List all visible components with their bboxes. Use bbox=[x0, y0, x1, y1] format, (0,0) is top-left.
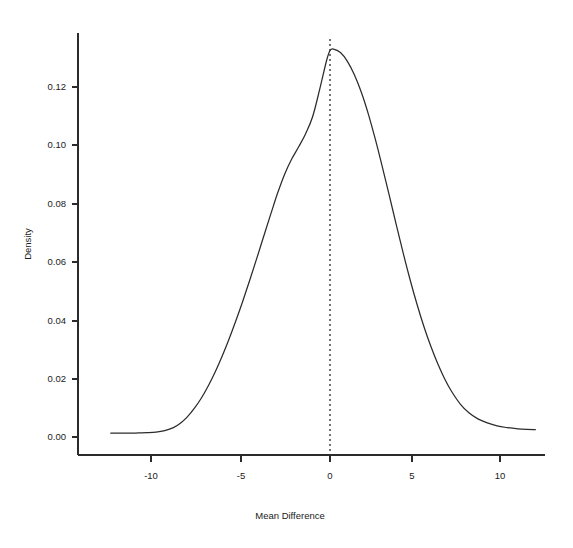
x-tick-label-4: 10 bbox=[495, 470, 506, 481]
plot-background bbox=[0, 0, 573, 548]
x-tick-label-0: -10 bbox=[144, 470, 158, 481]
y-tick-label-0: 0.00 bbox=[48, 431, 67, 442]
y-axis-title: Density bbox=[22, 228, 33, 260]
x-axis-title: Mean Difference bbox=[255, 510, 325, 521]
x-tick-label-2: 0 bbox=[327, 470, 332, 481]
density-plot-figure: 0.00 0.02 0.04 0.06 0.08 0.10 0.12 -10 -… bbox=[0, 0, 573, 548]
x-tick-label-1: -5 bbox=[237, 470, 245, 481]
y-tick-label-4: 0.08 bbox=[48, 198, 67, 209]
y-tick-label-3: 0.06 bbox=[48, 256, 67, 267]
y-tick-label-1: 0.02 bbox=[48, 373, 67, 384]
y-tick-label-5: 0.10 bbox=[48, 139, 67, 150]
density-plot-canvas: 0.00 0.02 0.04 0.06 0.08 0.10 0.12 -10 -… bbox=[0, 0, 573, 548]
y-tick-label-6: 0.12 bbox=[48, 81, 67, 92]
y-tick-label-2: 0.04 bbox=[48, 315, 67, 326]
x-tick-label-3: 5 bbox=[409, 470, 414, 481]
